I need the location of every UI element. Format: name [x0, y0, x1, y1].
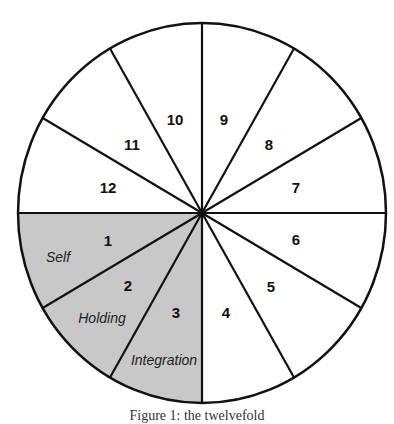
segment-number-10: 10 [167, 111, 184, 128]
segment-number-9: 9 [220, 111, 228, 128]
segment-number-1: 1 [104, 232, 112, 249]
segment-number-5: 5 [267, 278, 275, 295]
figure-caption: Figure 1: the twelvefold [0, 408, 394, 424]
segment-number-12: 12 [100, 179, 117, 196]
segment-label-holding: Holding [78, 310, 126, 326]
segment-number-8: 8 [265, 136, 273, 153]
segment-number-7: 7 [292, 179, 300, 196]
segment-number-6: 6 [292, 231, 300, 248]
segment-number-11: 11 [124, 136, 140, 153]
segment-number-2: 2 [124, 277, 132, 294]
segment-label-integration: Integration [131, 352, 197, 368]
segment-number-3: 3 [172, 304, 180, 321]
center-point [199, 210, 205, 216]
segment-number-4: 4 [222, 304, 231, 321]
segment-label-self: Self [46, 249, 72, 265]
